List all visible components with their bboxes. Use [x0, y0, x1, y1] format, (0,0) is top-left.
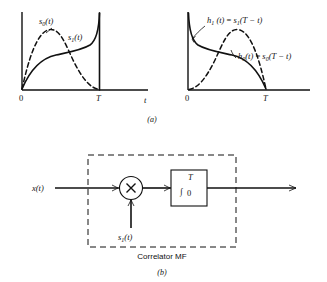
correlator-dashed-boundary [88, 155, 236, 247]
left-plot-origin-label: 0 [19, 93, 23, 103]
panel-b-caption: (b) [157, 268, 167, 277]
correlator-block-label: Correlator MF [137, 252, 186, 261]
left-plot-tick-T-label: T [96, 93, 102, 103]
integrator-lower-limit: 0 [187, 188, 191, 198]
left-plot-curve-s0 [22, 29, 99, 89]
left-plot-x-axis-label: t [144, 95, 147, 105]
right-plot-label-h0: h0(t) = s0(T − t) [238, 51, 291, 62]
figure-container: s0(t) s1(t) 0 T t h1 (t) = s1(T − t) h0(… [0, 0, 327, 282]
left-plot-label-s0: s0(t) [39, 16, 54, 27]
panel-a-left-plot: s0(t) s1(t) 0 T t [19, 12, 148, 105]
left-plot-label-s1: s1(t) [68, 32, 83, 43]
right-plot-origin-label: 0 [185, 93, 189, 103]
right-plot-label-h1: h1 (t) = s1(T − t) [207, 15, 263, 26]
left-plot-curve-s1 [22, 13, 100, 89]
right-plot-tick-T-label: T [263, 93, 269, 103]
right-plot-h1-leader [192, 26, 205, 39]
input-signal-label: x(t) [31, 183, 44, 193]
panel-b-block-diagram: x(t) s1(t) ∫ T 0 Correlator MF [31, 155, 296, 261]
reference-signal-label: s1(t) [118, 232, 133, 243]
right-plot-h0-leader [231, 50, 236, 58]
panel-a-caption: (a) [147, 115, 157, 124]
panel-a-right-plot: h1 (t) = s1(T − t) h0(t) = s0(T − t) 0 T [185, 12, 310, 103]
